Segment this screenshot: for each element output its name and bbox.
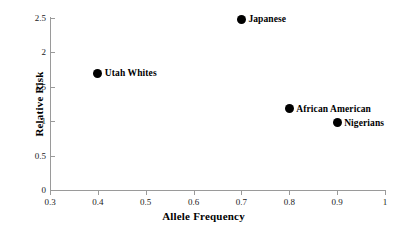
y-axis-tick: [51, 156, 55, 157]
x-axis-title: Allele Frequency: [0, 210, 407, 222]
x-axis-tick: [289, 191, 290, 195]
x-axis-line: [50, 190, 386, 191]
y-axis-tick-label: 2.5: [35, 13, 46, 23]
x-axis-tick-label: 0.5: [140, 197, 151, 207]
x-axis-tick: [241, 191, 242, 195]
x-axis-tick: [50, 191, 51, 195]
data-point-label: Utah Whites: [105, 68, 157, 78]
x-axis-tick: [146, 191, 147, 195]
y-axis-tick: [51, 52, 55, 53]
data-point-marker: [237, 15, 246, 24]
x-axis-tick-label: 0.7: [236, 197, 247, 207]
data-point-label: Japanese: [248, 14, 286, 24]
x-axis-tick-label: 0.9: [332, 197, 343, 207]
y-axis-tick: [51, 121, 55, 122]
x-axis-tick-label: 0.3: [44, 197, 55, 207]
x-axis-tick-label: 0.8: [284, 197, 295, 207]
y-axis-tick-label: 0: [42, 185, 47, 195]
x-axis-tick: [194, 191, 195, 195]
y-axis-tick: [51, 18, 55, 19]
y-axis-tick: [51, 190, 55, 191]
y-axis-tick-label: 2: [42, 47, 47, 57]
data-point-marker: [285, 104, 294, 113]
y-axis-tick-label: 0.5: [35, 151, 46, 161]
x-axis-tick: [337, 191, 338, 195]
y-axis-line: [50, 17, 51, 191]
chart-canvas: 00.511.522.5 0.30.40.50.60.70.80.91 Japa…: [0, 0, 407, 236]
x-axis-tick: [98, 191, 99, 195]
x-axis-tick: [385, 191, 386, 195]
data-point-marker: [93, 69, 102, 78]
data-point-label: African American: [296, 104, 371, 114]
data-point-marker: [333, 118, 342, 127]
y-axis-tick: [51, 87, 55, 88]
x-axis-tick-label: 1: [383, 197, 388, 207]
y-axis-title: Relative Risk: [33, 71, 45, 136]
x-axis-tick-label: 0.6: [188, 197, 199, 207]
x-axis-tick-label: 0.4: [92, 197, 103, 207]
data-point-label: Nigerians: [344, 118, 384, 128]
